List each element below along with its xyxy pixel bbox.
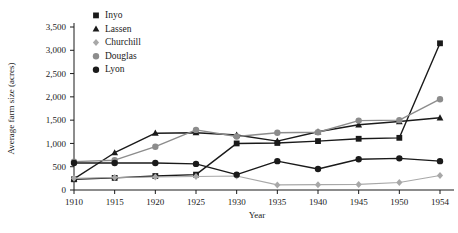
data-point xyxy=(233,171,239,177)
series-line-lassen xyxy=(74,118,440,179)
legend-label: Lassen xyxy=(105,24,132,34)
data-point xyxy=(71,160,77,166)
data-point xyxy=(356,181,362,188)
legend-item-inyo[interactable]: Inyo xyxy=(93,10,123,20)
legend-item-churchill[interactable]: Churchill xyxy=(93,37,141,47)
y-tick-label: 2,000 xyxy=(46,92,67,102)
series-inyo xyxy=(71,40,443,182)
series-churchill xyxy=(71,172,443,188)
data-point xyxy=(111,160,117,166)
legend-label: Douglas xyxy=(105,51,137,61)
x-tick-label: 1935 xyxy=(268,197,287,207)
x-tick-label: 1910 xyxy=(65,197,84,207)
legend-marker-triangle-icon xyxy=(93,25,100,31)
series-lassen xyxy=(71,114,444,181)
y-tick-label: 500 xyxy=(53,162,67,172)
data-point xyxy=(355,156,361,162)
data-point xyxy=(152,160,158,166)
data-point xyxy=(396,117,402,123)
data-point xyxy=(193,127,199,133)
x-axis-title: Year xyxy=(249,210,266,220)
data-point xyxy=(234,141,240,147)
series-line-lyon xyxy=(74,158,440,174)
legend-item-douglas[interactable]: Douglas xyxy=(93,51,137,61)
x-tick-label: 1950 xyxy=(390,197,409,207)
series-line-douglas xyxy=(74,99,440,161)
data-point xyxy=(315,138,321,144)
data-point xyxy=(233,133,239,139)
x-tick-label: 1930 xyxy=(228,197,247,207)
data-point xyxy=(356,136,362,142)
legend-marker-diamond-icon xyxy=(93,39,99,46)
data-point xyxy=(193,161,199,167)
data-point xyxy=(437,172,443,179)
data-point xyxy=(396,179,402,186)
x-tick-label: 1940 xyxy=(309,197,328,207)
series-line-churchill xyxy=(74,176,440,185)
chart-legend: InyoLassenChurchillDouglasLyon xyxy=(93,10,142,74)
data-point xyxy=(315,181,321,188)
y-tick-label: 3,000 xyxy=(46,45,67,55)
x-tick-label: 1915 xyxy=(106,197,125,207)
x-tick-label: 1945 xyxy=(350,197,369,207)
legend-item-lyon[interactable]: Lyon xyxy=(93,64,125,74)
y-tick-label: 3,500 xyxy=(46,22,67,32)
legend-marker-circle-gray-icon xyxy=(93,53,99,59)
x-tick-label: 1954 xyxy=(431,197,450,207)
data-point xyxy=(274,158,280,164)
y-tick-label: 0 xyxy=(62,185,67,195)
data-point xyxy=(274,130,280,136)
y-axis-title: Average farm size (acres) xyxy=(6,62,16,154)
data-point xyxy=(396,135,402,141)
x-tick-label: 1920 xyxy=(146,197,165,207)
data-point xyxy=(437,96,443,102)
data-point xyxy=(437,114,444,120)
y-tick-label: 1,000 xyxy=(46,139,67,149)
legend-label: Lyon xyxy=(105,64,125,74)
data-point xyxy=(152,143,158,149)
data-point xyxy=(315,129,321,135)
data-point xyxy=(437,158,443,164)
legend-label: Churchill xyxy=(105,37,141,47)
farm-size-line-chart: 05001,0001,5002,0002,5003,0003,500191019… xyxy=(0,0,458,233)
x-tick-label: 1925 xyxy=(187,197,206,207)
data-point xyxy=(437,40,443,46)
data-point xyxy=(315,166,321,172)
y-tick-label: 2,500 xyxy=(46,69,67,79)
chart-canvas: 05001,0001,5002,0002,5003,0003,500191019… xyxy=(0,0,458,233)
series-douglas xyxy=(71,96,443,165)
data-point xyxy=(355,117,361,123)
legend-marker-circle-icon xyxy=(93,67,99,73)
legend-item-lassen[interactable]: Lassen xyxy=(93,24,132,34)
series-lyon xyxy=(71,155,443,178)
legend-marker-square-icon xyxy=(93,13,99,19)
data-point xyxy=(396,155,402,161)
y-tick-label: 1,500 xyxy=(46,115,67,125)
data-point xyxy=(274,181,280,188)
legend-label: Inyo xyxy=(105,10,123,20)
